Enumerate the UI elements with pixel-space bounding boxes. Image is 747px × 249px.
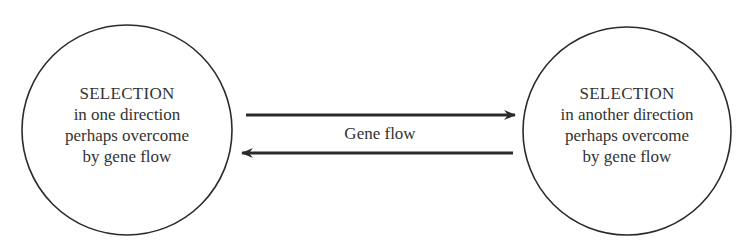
gene-flow-label: Gene flow: [310, 124, 450, 144]
left-node-label: SELECTION in one direction perhaps overc…: [17, 83, 237, 167]
left-node-line-1: in one direction: [17, 104, 237, 125]
left-node-title: SELECTION: [17, 83, 237, 104]
diagram-canvas: SELECTION in one direction perhaps overc…: [0, 0, 747, 249]
right-node-line-1: in another direction: [517, 104, 737, 125]
left-node-line-2: perhaps overcome: [17, 125, 237, 146]
left-node-line-3: by gene flow: [17, 146, 237, 167]
right-node-label: SELECTION in another direction perhaps o…: [517, 83, 737, 167]
right-node-line-3: by gene flow: [517, 146, 737, 167]
right-node-line-2: perhaps overcome: [517, 125, 737, 146]
right-node-title: SELECTION: [517, 83, 737, 104]
